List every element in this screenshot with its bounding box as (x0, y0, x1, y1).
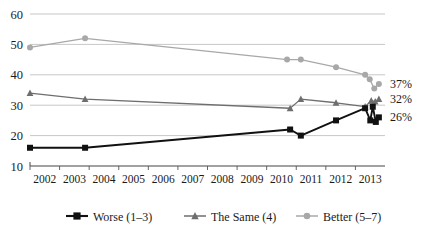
data-point-marker (298, 57, 304, 63)
y-axis-tick-label: 40 (11, 68, 24, 82)
x-axis-tick-label: 2011 (300, 173, 323, 185)
x-axis-tick-label: 2004 (92, 173, 115, 185)
y-axis-tick-label: 60 (11, 8, 24, 22)
data-point-marker (82, 145, 88, 151)
line-chart: 6050403020102002200320042005200620072008… (0, 0, 421, 233)
x-axis-tick-label: 2006 (152, 173, 175, 185)
x-axis-tick-label: 2010 (270, 173, 293, 185)
x-axis-tick-label: 2008 (211, 173, 234, 185)
series-end-label: 26% (390, 110, 412, 124)
x-axis-tick-label: 2005 (122, 173, 145, 185)
x-axis-tick-label: 2007 (181, 173, 204, 185)
data-point-marker (376, 114, 382, 120)
data-point-marker (73, 212, 80, 219)
data-point-marker (362, 72, 368, 78)
series-end-label: 37% (390, 77, 412, 91)
legend-item-label: Worse (1–3) (93, 210, 152, 224)
data-point-marker (376, 81, 382, 87)
data-point-marker (370, 104, 376, 110)
series-line (30, 107, 379, 148)
chart-container: 6050403020102002200320042005200620072008… (0, 0, 421, 233)
data-point-marker (333, 64, 339, 70)
legend-item-label: Better (5–7) (323, 210, 381, 224)
data-point-marker (304, 213, 311, 220)
x-axis-tick-label: 2012 (329, 173, 352, 185)
legend-item-label: The Same (4) (211, 210, 276, 224)
data-point-marker (367, 76, 373, 82)
data-point-marker (82, 35, 88, 41)
series-end-label: 32% (390, 92, 412, 106)
y-axis-tick-label: 20 (11, 129, 24, 143)
series-line (30, 38, 379, 88)
data-point-marker (367, 117, 373, 123)
data-point-marker (362, 105, 368, 111)
data-point-marker (371, 85, 377, 91)
data-point-marker (298, 133, 304, 139)
data-point-marker (287, 127, 293, 133)
data-point-marker (284, 57, 290, 63)
data-point-marker (375, 96, 382, 103)
x-axis-tick-label: 2002 (33, 173, 56, 185)
x-axis-tick-label: 2003 (63, 173, 86, 185)
series-line (30, 93, 379, 108)
data-point-marker (27, 145, 33, 151)
data-point-marker (333, 117, 339, 123)
x-axis-tick-label: 2009 (240, 173, 263, 185)
y-axis-tick-label: 50 (11, 38, 24, 52)
y-axis-tick-label: 10 (11, 160, 24, 174)
y-axis-tick-label: 30 (11, 99, 24, 113)
data-point-marker (27, 44, 33, 50)
x-axis-tick-label: 2013 (359, 173, 382, 185)
